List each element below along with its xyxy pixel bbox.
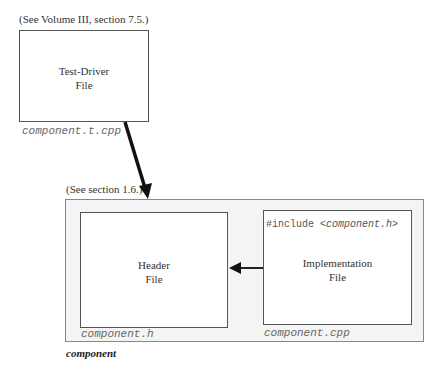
arrow-implementation-to-header — [229, 262, 263, 274]
dependency-arrows — [0, 0, 445, 373]
arrow-test-driver-to-component — [125, 122, 152, 199]
